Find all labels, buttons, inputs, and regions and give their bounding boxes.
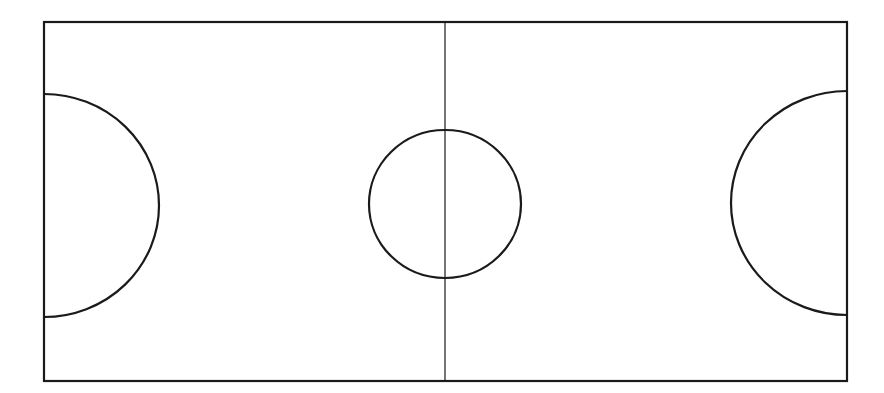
right-goal-arc [731,91,847,315]
left-goal-arc [44,94,159,317]
court-diagram [0,0,884,393]
